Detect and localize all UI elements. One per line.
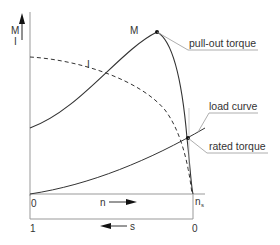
torque-speed-diagram: M I 0 n n s 1 s 0 I M pull-out torque lo… — [0, 0, 280, 245]
ns-subscript: s — [201, 202, 204, 208]
slip-arrow-icon — [100, 223, 111, 229]
load-curve-label: load curve — [209, 100, 258, 112]
pull-out-point — [155, 30, 159, 34]
y-axis-arrow-icon — [19, 13, 25, 24]
slip-axis-zero: 0 — [192, 223, 198, 234]
load-curve-leader — [198, 113, 258, 132]
y-label-m: M — [11, 25, 19, 36]
current-curve-label: I — [87, 59, 90, 70]
slip-axis-one: 1 — [30, 223, 36, 234]
load-curve — [30, 128, 205, 194]
pull-out-label: pull-out torque — [189, 37, 256, 49]
speed-axis-label: n — [100, 197, 106, 208]
torque-curve-label: M — [130, 25, 138, 36]
ns-label: n — [195, 196, 201, 207]
speed-axis-zero: 0 — [31, 198, 37, 209]
y-label-i: I — [14, 36, 17, 47]
speed-arrow-icon — [126, 199, 137, 205]
current-curve — [30, 57, 192, 194]
rated-torque-label: rated torque — [209, 140, 266, 152]
torque-curve — [30, 32, 193, 194]
slip-axis-label: s — [130, 221, 135, 232]
